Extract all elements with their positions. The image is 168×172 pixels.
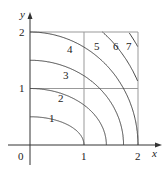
contour-curve-3 (30, 60, 124, 145)
contour-curve-5 (103, 32, 138, 81)
y-axis-label: y (20, 9, 25, 20)
y-axis-arrow-icon (28, 12, 33, 19)
contour-label-6: 6 (113, 41, 119, 52)
x-axis-label: x (152, 148, 157, 159)
x-tick-2: 2 (135, 151, 141, 162)
contour-label-2: 2 (58, 93, 64, 104)
contour-label-1: 1 (49, 113, 55, 124)
contour-label-7: 7 (126, 41, 132, 52)
contour-diagram: y x 0 1 2 1 2 1 2 3 4 5 6 7 (0, 0, 168, 172)
contour-curve-2 (30, 89, 106, 146)
contour-plot (0, 0, 168, 172)
origin-label: 0 (18, 151, 24, 162)
y-tick-1: 1 (19, 83, 25, 94)
x-tick-1: 1 (81, 151, 87, 162)
contour-label-4: 4 (67, 44, 73, 55)
contour-label-5: 5 (94, 41, 100, 52)
contour-curve-1 (30, 117, 84, 145)
contour-label-3: 3 (63, 70, 69, 81)
y-tick-2: 2 (19, 27, 25, 38)
